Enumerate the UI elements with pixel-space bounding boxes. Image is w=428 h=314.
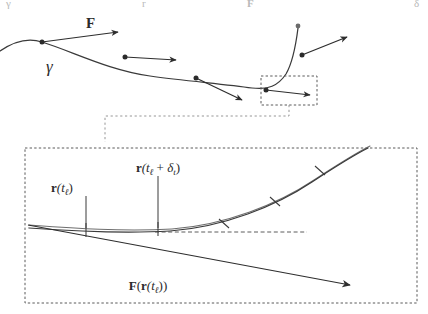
label-delta-plus: + <box>153 160 167 175</box>
label-force-close: )) <box>159 278 168 293</box>
figure-root: γ r F δ <box>0 0 428 314</box>
label-r-of-t-ell-close: ) <box>69 180 73 195</box>
detail-trajectory-curve <box>29 148 368 232</box>
figure-canvas: γ F <box>0 0 428 314</box>
bottom-panel-group: r(tℓ) r(tℓ + δt) F(r(tℓ)) <box>25 146 417 303</box>
sample-point-2 <box>123 55 128 60</box>
force-vector-4 <box>266 90 310 95</box>
force-vector-2 <box>125 57 176 60</box>
sample-point-4 <box>264 88 269 93</box>
polyline-approximation <box>29 146 370 230</box>
curve-endpoint-dot <box>296 24 301 29</box>
tick-seg-5 <box>315 166 325 175</box>
label-force-of-r-of-t-ell: F(r(tℓ)) <box>129 278 167 295</box>
label-force-bold-f: F <box>129 278 137 293</box>
sample-point-5 <box>300 53 305 58</box>
label-delta-close: ) <box>176 160 180 175</box>
zoom-connector-path <box>105 105 289 142</box>
label-r-of-t-ell-plus-delta: r(tℓ + δt) <box>136 160 180 177</box>
force-vector-5 <box>302 37 347 55</box>
force-vector-3 <box>196 78 242 100</box>
force-field-label: F <box>86 15 95 31</box>
sample-point-3 <box>194 76 199 81</box>
sample-point-1 <box>40 40 45 45</box>
curve-label-gamma: γ <box>46 57 54 76</box>
detail-panel-frame <box>25 148 417 303</box>
label-r-of-t-ell: r(tℓ) <box>51 180 73 197</box>
force-vector-1 <box>42 32 118 42</box>
force-vector-at-t-ell <box>28 225 350 285</box>
top-panel-group: γ F <box>0 15 347 142</box>
